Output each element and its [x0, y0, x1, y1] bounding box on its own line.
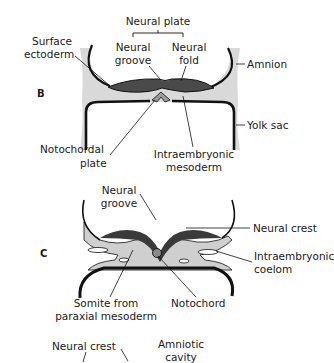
label-d-amniotic-cavity-line2: cavity [156, 351, 206, 363]
label-intraembryonic-mesoderm-line2: mesoderm [152, 161, 236, 173]
label-d-neural-crest: Neural crest [52, 340, 116, 352]
label-surface-ectoderm-line2: ectoderm [24, 48, 74, 60]
label-surface-ectoderm-line1: Surface [32, 35, 72, 47]
label-intraembryonic-mesoderm-line1: Intraembryonic [152, 148, 236, 160]
label-c-somite-line1: Somite from [54, 297, 158, 309]
label-neural-groove-line2: groove [108, 54, 158, 66]
label-neural-fold-line1: Neural [167, 41, 211, 53]
label-c-neural-groove-line2: groove [96, 197, 142, 209]
label-neural-groove-line1: Neural [108, 41, 158, 53]
panel-b-drawing [75, 30, 245, 155]
panel-c-drawing [80, 194, 252, 298]
label-neural-fold-line2: fold [167, 54, 211, 66]
label-c-intraembryonic-coelom-line2: coelom [254, 263, 292, 275]
label-c-somite-line2: paraxial mesoderm [54, 310, 158, 322]
label-yolk-sac: Yolk sac [247, 119, 288, 131]
label-neural-plate: Neural plate [121, 15, 195, 27]
panel-label-b: B [37, 88, 45, 99]
label-c-neural-groove-line1: Neural [96, 184, 142, 196]
label-d-amniotic-cavity-line1: Amniotic [156, 338, 206, 350]
panel-label-c: C [40, 248, 47, 259]
label-c-intraembryonic-coelom-line1: Intraembryonic [254, 250, 334, 262]
label-notochordal-plate-line2: plate [80, 157, 107, 169]
label-amnion: Amnion [247, 58, 287, 70]
label-c-neural-crest: Neural crest [253, 222, 317, 234]
label-notochordal-plate-line1: Notochordal [40, 143, 104, 155]
label-c-notochord: Notochord [171, 297, 225, 309]
